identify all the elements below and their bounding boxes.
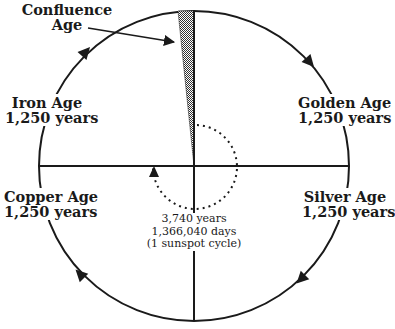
arrow-copper-icon: [71, 265, 88, 282]
copper-age-name: Copper Age: [4, 189, 96, 204]
cycle-summary-label: 3,740 years 1,366,040 days (1 sunspot cy…: [144, 213, 244, 251]
silver-age-name: Silver Age: [302, 189, 388, 204]
confluence-label-line2: Age: [14, 17, 120, 32]
silver-age-duration: 1,250 years: [302, 204, 388, 219]
cycle-years: 3,740 years: [144, 213, 244, 226]
silver-age-label: Silver Age 1,250 years: [300, 188, 390, 220]
cycle-note: (1 sunspot cycle): [144, 238, 244, 251]
golden-age-duration: 1,250 years: [298, 110, 390, 125]
iron-age-label: Iron Age 1,250 years: [3, 94, 91, 126]
confluence-age-label: Confluence Age: [14, 2, 120, 32]
arrow-iron-icon: [78, 43, 95, 60]
confluence-age-wedge: [178, 11, 194, 166]
inner-cycle-arrow-icon: [149, 166, 159, 177]
confluence-label-line1: Confluence: [14, 2, 120, 17]
golden-age-name: Golden Age: [298, 95, 390, 110]
iron-age-name: Iron Age: [5, 95, 89, 110]
golden-age-label: Golden Age 1,250 years: [296, 94, 392, 126]
copper-age-duration: 1,250 years: [4, 204, 96, 219]
copper-age-label: Copper Age 1,250 years: [2, 188, 98, 220]
iron-age-duration: 1,250 years: [5, 110, 89, 125]
